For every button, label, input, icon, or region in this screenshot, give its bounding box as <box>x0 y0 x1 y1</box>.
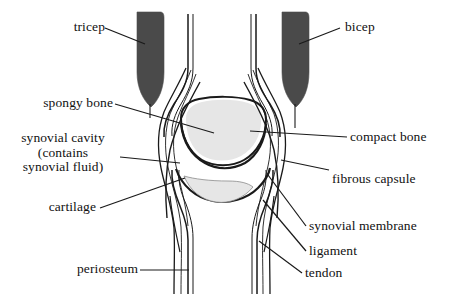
leader-cartilage <box>100 178 185 208</box>
joint-diagram: tricep bicep spongy bone synovial cavity… <box>0 0 449 304</box>
label-tendon: tendon <box>305 266 367 281</box>
label-ligament: ligament <box>309 244 379 259</box>
label-compact-bone: compact bone <box>350 130 446 145</box>
label-spongy-bone: spongy bone <box>25 96 113 111</box>
label-periosteum: periosteum <box>63 262 138 277</box>
label-synovial-membrane: synovial membrane <box>309 219 439 234</box>
label-bicep: bicep <box>345 20 405 35</box>
label-cartilage: cartilage <box>28 200 96 215</box>
leader-synovial-cavity <box>120 157 180 163</box>
bicep-muscle <box>282 12 309 128</box>
tricep-muscle <box>137 12 164 118</box>
leader-tendon <box>259 241 302 273</box>
lower-bone <box>172 168 273 294</box>
label-tricep: tricep <box>55 20 105 35</box>
leader-fibrous-capsule <box>281 160 329 170</box>
label-fibrous-capsule: fibrous capsule <box>332 172 436 187</box>
label-synovial-cavity: synovial cavity (contains synovial fluid… <box>8 131 118 175</box>
